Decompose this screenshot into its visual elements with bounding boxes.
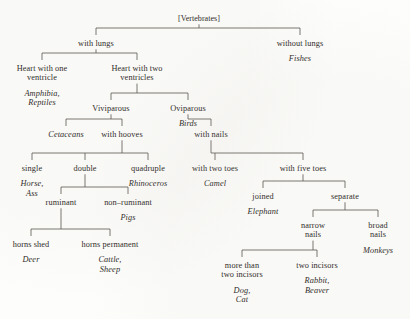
node-label-without_lungs: without lungs — [277, 39, 324, 48]
tree-node-joined: joinedElephant — [248, 192, 279, 217]
node-taxa-two_incisors: Rabbit, Beaver — [296, 276, 338, 295]
tree-node-without_lungs: without lungsFishes — [277, 39, 324, 64]
node-label-non_ruminant: non–ruminant — [104, 198, 152, 207]
node-label-broad_nails: broad nails — [363, 221, 393, 240]
tree-node-non_ruminant: non–ruminantPigs — [104, 198, 152, 223]
node-label-five_toes: with five toes — [280, 164, 327, 173]
node-label-oviparous: Oviparous — [170, 104, 205, 113]
node-label-root: [Vertebrates] — [178, 14, 220, 23]
node-taxa-joined: Elephant — [248, 207, 279, 216]
node-taxa-heart_one: Amphibia, Reptiles — [17, 89, 68, 108]
tree-node-heart_two: Heart with two ventricles — [111, 64, 162, 83]
tree-node-with_nails: with nails — [194, 130, 228, 139]
node-label-single: single — [21, 164, 44, 173]
tree-node-with_hooves: with hooves — [101, 130, 142, 139]
tree-node-horns_shed: horns shedDeer — [13, 240, 50, 265]
node-label-two_incisors: two incisors — [296, 261, 338, 270]
tree-node-root: [Vertebrates] — [178, 14, 220, 23]
tree-node-separate: separate — [331, 192, 359, 201]
node-label-narrow_nails: narrow nails — [301, 221, 325, 240]
tree-node-quadruple: quadrupleRhinoceros — [129, 164, 167, 189]
node-taxa-quadruple: Rhinoceros — [129, 179, 167, 188]
tree-node-five_toes: with five toes — [280, 164, 327, 173]
tree-node-single: singleHorse, Ass — [21, 164, 44, 198]
node-label-with_nails: with nails — [194, 130, 228, 139]
tree-connector-lines — [0, 0, 410, 319]
tree-node-two_toes: with two toesCamel — [192, 164, 238, 189]
node-label-heart_one: Heart with one ventricle — [17, 64, 68, 83]
tree-node-narrow_nails: narrow nails — [301, 221, 325, 240]
tree-node-cetaceans: Cetaceans — [48, 130, 83, 139]
node-taxa-broad_nails: Monkeys — [363, 246, 393, 255]
node-taxa-non_ruminant: Pigs — [104, 213, 152, 222]
node-label-joined: joined — [248, 192, 279, 201]
node-label-ruminant: ruminant — [46, 198, 77, 207]
node-taxa-without_lungs: Fishes — [277, 54, 324, 63]
node-taxa-oviparous: Birds — [170, 119, 205, 128]
tree-node-more_incisors: more than two incisorsDog, Cat — [221, 261, 263, 304]
node-label-more_incisors: more than two incisors — [221, 261, 263, 280]
tree-node-with_lungs: with lungs — [78, 39, 114, 48]
node-taxa-horns_shed: Deer — [13, 255, 50, 264]
node-label-quadruple: quadruple — [129, 164, 167, 173]
node-taxa-horns_permanent: Cattle, Sheep — [81, 255, 138, 274]
node-label-heart_two: Heart with two ventricles — [111, 64, 162, 83]
tree-node-horns_permanent: horns permanentCattle, Sheep — [81, 240, 138, 274]
node-label-with_hooves: with hooves — [101, 130, 142, 139]
node-taxa-two_toes: Camel — [192, 179, 238, 188]
node-taxa-more_incisors: Dog, Cat — [221, 286, 263, 305]
tree-node-viviparous: Viviparous — [92, 104, 129, 113]
tree-node-ruminant: ruminant — [46, 198, 77, 207]
classification-tree-diagram: [Vertebrates]with lungswithout lungsFish… — [0, 0, 410, 319]
tree-node-two_incisors: two incisorsRabbit, Beaver — [296, 261, 338, 295]
node-label-horns_permanent: horns permanent — [81, 240, 138, 249]
node-label-horns_shed: horns shed — [13, 240, 50, 249]
node-label-double: double — [73, 164, 96, 173]
tree-node-broad_nails: broad nailsMonkeys — [363, 221, 393, 255]
node-label-two_toes: with two toes — [192, 164, 238, 173]
node-label-with_lungs: with lungs — [78, 39, 114, 48]
tree-node-oviparous: OviparousBirds — [170, 104, 205, 129]
node-label-separate: separate — [331, 192, 359, 201]
tree-node-heart_one: Heart with one ventricleAmphibia, Reptil… — [17, 64, 68, 107]
node-label-viviparous: Viviparous — [92, 104, 129, 113]
node-taxa-cetaceans: Cetaceans — [48, 130, 83, 139]
node-taxa-single: Horse, Ass — [21, 179, 44, 198]
tree-node-double: double — [73, 164, 96, 173]
paper-grain-overlay — [0, 0, 410, 319]
